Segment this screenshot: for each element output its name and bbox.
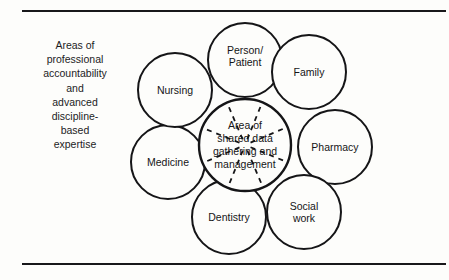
petal-circle-medicine: [131, 125, 205, 199]
figure-container: Areas ofprofessionalaccountabilityandadv…: [0, 0, 449, 280]
caption-line-0: Areas of: [16, 38, 134, 52]
flower-diagram: Person/PatientFamilyPharmacySocialworkDe…: [120, 10, 390, 260]
caption-line-5: discipline-: [16, 109, 134, 123]
caption-line-1: professional: [16, 52, 134, 66]
caption-line-2: accountability: [16, 66, 134, 80]
caption-line-6: based: [16, 123, 134, 137]
center-circle: [199, 99, 291, 191]
petal-circle-person-patient: [208, 23, 282, 97]
caption-line-3: and: [16, 81, 134, 95]
petal-circle-family: [272, 35, 346, 109]
petal-circle-nursing: [138, 53, 212, 127]
caption-professional-accountability: Areas ofprofessionalaccountabilityandadv…: [16, 38, 134, 152]
petal-circle-social-work: [267, 175, 341, 249]
caption-line-7: expertise: [16, 137, 134, 151]
caption-line-4: advanced: [16, 95, 134, 109]
petal-circle-pharmacy: [298, 110, 372, 184]
flower-svg: [120, 10, 390, 260]
